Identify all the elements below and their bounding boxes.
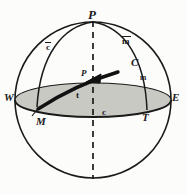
label-arc-t: t [76, 91, 79, 100]
label-pole-top: P [88, 8, 96, 21]
label-plane-arc: c [102, 108, 106, 117]
sphere-drawing [0, 0, 187, 195]
overbar-c: c [46, 43, 50, 52]
label-vector-origin: C [131, 57, 138, 68]
overbar-m: m [122, 37, 130, 46]
sphere-diagram: P c m C m P W E M c T t [0, 0, 187, 195]
label-meridian-foot: M [36, 116, 46, 127]
center-point-dot [92, 78, 95, 81]
label-meridian-right: m [122, 37, 130, 46]
label-east: E [172, 92, 179, 103]
label-west: W [4, 92, 14, 103]
label-meridian-left: c [46, 43, 50, 52]
label-small-m: m [140, 74, 146, 82]
label-center-point: P [81, 69, 87, 78]
label-plane-point: T [142, 112, 149, 123]
